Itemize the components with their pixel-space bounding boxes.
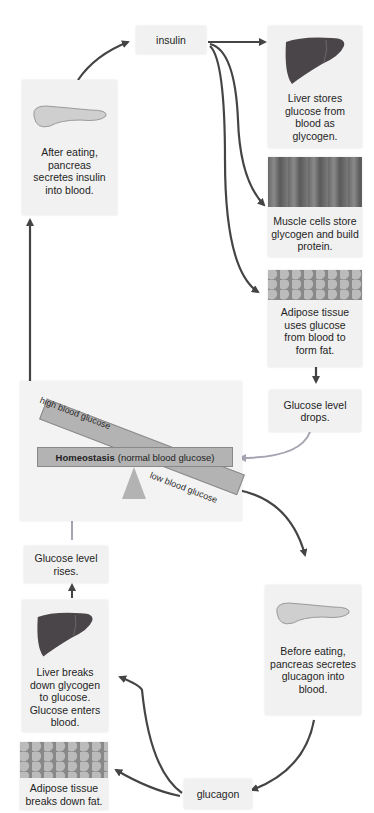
adipose-tissue-image — [268, 270, 362, 300]
pancreas-before-text: Before eating, pancreas secretes glucago… — [267, 645, 359, 695]
pancreas-after-eating-box: After eating, pancreas secretes insulin … — [22, 80, 117, 215]
glucose-rises-text: Glucose level rises. — [31, 552, 101, 577]
pancreas-after-text: After eating, pancreas secretes insulin … — [30, 146, 110, 196]
liver-icon — [282, 34, 348, 86]
liver-stores-text: Liver stores glucose from blood as glyco… — [280, 92, 350, 142]
homeostasis-bold-label: Homeostasis — [56, 452, 115, 463]
liver-breaks-box: Liver breaks down glycogen to glucose. G… — [22, 600, 108, 732]
adipose-breaks-box: Adipose tissue breaks down fat. — [20, 742, 108, 810]
insulin-box: insulin — [136, 26, 206, 54]
glucose-rises-box: Glucose level rises. — [24, 546, 108, 583]
adipose-breaks-text: Adipose tissue breaks down fat. — [21, 782, 107, 807]
homeostasis-normal-label: (normal blood glucose) — [118, 452, 215, 463]
pancreas-icon — [271, 597, 355, 629]
adipose-uses-box: Adipose tissue uses glucose from blood t… — [268, 270, 362, 367]
liver-icon — [34, 608, 96, 660]
pancreas-icon — [30, 100, 110, 132]
insulin-label: insulin — [156, 34, 186, 47]
muscle-tissue-image — [268, 157, 362, 207]
homeostasis-bar: Homeostasis (normal blood glucose) — [37, 447, 233, 467]
pancreas-before-eating-box: Before eating, pancreas secretes glucago… — [265, 585, 361, 715]
adipose-tissue-image — [20, 742, 108, 778]
glucose-drops-box: Glucose level drops. — [269, 390, 361, 432]
adipose-uses-text: Adipose tissue uses glucose from blood t… — [275, 306, 355, 356]
muscle-text: Muscle cells store glycogen and build pr… — [270, 215, 360, 253]
glucose-drops-text: Glucose level drops. — [280, 399, 350, 424]
muscle-cells-box: Muscle cells store glycogen and build pr… — [268, 157, 362, 257]
fulcrum-triangle — [122, 467, 146, 499]
liver-stores-box: Liver stores glucose from blood as glyco… — [268, 26, 362, 148]
liver-breaks-text: Liver breaks down glycogen to glucose. G… — [25, 666, 105, 729]
glucagon-box: glucagon — [184, 779, 252, 809]
glucagon-label: glucagon — [197, 788, 240, 801]
